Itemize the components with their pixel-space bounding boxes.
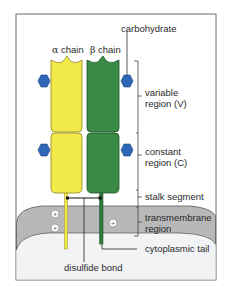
svg-text:+: + (53, 224, 58, 233)
carbohydrate-icon (38, 144, 50, 156)
variable-region-label-2: region (V) (145, 98, 187, 109)
alpha-chain-label: chain (61, 44, 84, 55)
disulfide-dot (66, 197, 69, 200)
transmembrane-region-label-2: region (145, 223, 171, 234)
beta-chain-greek: β (90, 44, 96, 55)
tcr-diagram: + + + α chain β chain carbohydrate varia… (0, 0, 231, 299)
alpha-chain-tail (65, 191, 68, 249)
constant-region-label-2: region (C) (145, 157, 187, 168)
carbohydrate-icon (38, 75, 50, 87)
disulfide-bond-label: disulfide bond (64, 262, 123, 273)
alpha-constant-region (51, 133, 82, 193)
constant-region-label: constant (145, 146, 181, 157)
carbohydrate-icon (121, 144, 133, 156)
transmembrane-region-label: transmembrane (145, 212, 212, 223)
stalk-segment-label: stalk segment (145, 191, 204, 202)
svg-text:+: + (53, 210, 58, 219)
alpha-chain-greek: α (52, 44, 59, 55)
svg-text:+: + (111, 219, 116, 228)
beta-constant-region (87, 133, 119, 193)
beta-variable-region (87, 56, 119, 132)
carbohydrate-label: carbohydrate (121, 23, 176, 34)
disulfide-dot (99, 197, 102, 200)
variable-region-label: variable (145, 87, 178, 98)
alpha-variable-region (51, 56, 82, 132)
carbohydrate-icon (121, 75, 133, 87)
beta-chain-label: chain (98, 44, 121, 55)
cytoplasmic-tail-label: cytoplasmic tail (145, 243, 209, 254)
